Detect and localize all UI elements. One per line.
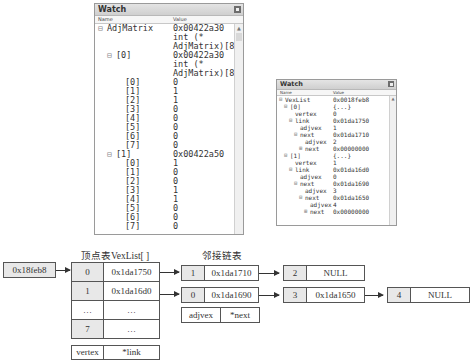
collapse-icon[interactable]: ⊟ xyxy=(284,152,287,159)
chain1-next-0: 0x1da1690 xyxy=(204,287,259,303)
watch-row[interactable]: [0]0 xyxy=(95,78,235,87)
watch-row[interactable]: vertex1 xyxy=(277,159,388,166)
expand-icon[interactable]: ⊞ xyxy=(304,208,307,215)
next-value: 0x1da1650 xyxy=(316,290,356,300)
watch-title: Watch xyxy=(280,80,303,88)
watch-row[interactable]: [7]0 xyxy=(95,222,235,231)
watch-row[interactable]: [4]0 xyxy=(95,114,235,123)
watch-row-value: 3 xyxy=(333,187,337,194)
watch-row-value: 0x01da1650 xyxy=(333,194,369,201)
vexlist-pointer-box: 0x18feb8 xyxy=(3,262,56,278)
watch-row[interactable]: ⊟next0x01da1690 xyxy=(277,180,388,187)
watch-row-value: 0x01da16d0 xyxy=(333,166,369,173)
chain1-adjvex-2: 4 xyxy=(387,287,411,303)
watch-row-value: 0x0018feb8 xyxy=(333,96,369,103)
scroll-up-icon[interactable]: ▲ xyxy=(235,24,243,32)
vexlist-vertex-ellipsis: … xyxy=(71,300,104,320)
watch-row-name: link xyxy=(295,117,309,124)
watch-row[interactable]: ⊟link0x01da1750 xyxy=(277,117,388,124)
watch-row[interactable]: [2]0 xyxy=(95,177,235,186)
watch-row[interactable]: [5]0 xyxy=(95,204,235,213)
watch-row-name: vertex xyxy=(295,159,317,166)
scrollbar[interactable]: ▲ xyxy=(389,96,396,225)
watch-row[interactable]: [5]0 xyxy=(95,123,235,132)
close-icon[interactable] xyxy=(234,6,241,13)
adjlist-title: 邻接链表 xyxy=(202,248,242,262)
watch-row[interactable]: adjvex1 xyxy=(277,124,388,131)
watch-row-value: 0x00000000 xyxy=(333,145,369,152)
scrollbar[interactable]: ▲ xyxy=(234,24,243,234)
collapse-icon[interactable]: ⊟ xyxy=(279,96,282,103)
link-value: 0x1da16d0 xyxy=(112,286,152,296)
scroll-up-icon[interactable]: ▲ xyxy=(390,96,396,102)
collapse-icon[interactable]: ⊟ xyxy=(299,194,302,201)
watch-row-name: [1] xyxy=(290,152,301,159)
next-value: 0x1da1710 xyxy=(212,268,252,278)
scroll-thumb[interactable] xyxy=(236,33,242,41)
watch-row[interactable]: adjvex4 xyxy=(277,201,388,208)
watch-row[interactable]: ⊟VexList0x0018feb8 xyxy=(277,96,388,103)
column-value[interactable]: Value xyxy=(173,16,187,23)
watch-row-value: {...} xyxy=(333,103,351,110)
watch-row[interactable]: ⊟[0]0x00422a30 xyxy=(95,51,235,60)
watch-row[interactable]: AdjMatrix)[8] xyxy=(95,69,235,78)
vexlist-link-ellipsis: … xyxy=(103,300,160,320)
watch-row[interactable]: [1]1 xyxy=(95,87,235,96)
watch-row[interactable]: ⊞next0x00000000 xyxy=(277,145,388,152)
collapse-icon[interactable]: ⊟ xyxy=(107,51,112,60)
watch-row-name: adjvex xyxy=(300,124,322,131)
expand-icon[interactable]: ⊞ xyxy=(299,145,302,152)
watch-row[interactable]: [6]0 xyxy=(95,213,235,222)
watch-window-vexlist: Watch Name Value ⊟VexList0x0018feb8⊟[0]{… xyxy=(276,79,397,226)
watch-row[interactable]: [4]1 xyxy=(95,195,235,204)
vexlist-vertex-1: 1 xyxy=(71,281,104,301)
column-value[interactable]: Value xyxy=(333,90,344,95)
column-name[interactable]: Name xyxy=(280,90,292,95)
watch-row[interactable]: ⊟[0]{...} xyxy=(277,103,388,110)
watch-row[interactable]: adjvex3 xyxy=(277,187,388,194)
watch-row[interactable]: ⊟next0x01da1650 xyxy=(277,194,388,201)
vexlist-link-7: … xyxy=(103,319,160,339)
collapse-icon[interactable]: ⊟ xyxy=(294,180,297,187)
watch-row-value: 0 xyxy=(333,173,337,180)
collapse-icon[interactable]: ⊟ xyxy=(98,24,103,33)
watch-row-name: adjvex xyxy=(310,201,332,208)
watch-row[interactable]: ⊟[1]{...} xyxy=(277,152,388,159)
link-value: … xyxy=(127,305,136,315)
watch-row[interactable]: [3]0 xyxy=(95,105,235,114)
watch-row[interactable]: [1]0 xyxy=(95,168,235,177)
vex-legend-link: *link xyxy=(103,345,160,360)
watch-row[interactable]: ⊞next0x00000000 xyxy=(277,208,388,215)
collapse-icon[interactable]: ⊟ xyxy=(294,131,297,138)
watch-row-name: adjvex xyxy=(305,187,327,194)
adjvex-value: 0 xyxy=(191,290,196,300)
watch-row[interactable]: [3]1 xyxy=(95,186,235,195)
arrow-icon xyxy=(160,294,179,295)
collapse-icon[interactable]: ⊟ xyxy=(289,117,292,124)
watch-row[interactable]: ⊟link0x01da16d0 xyxy=(277,166,388,173)
watch-row[interactable]: ⊟AdjMatrix0x00422a30 xyxy=(95,24,235,33)
next-value: NULL xyxy=(428,290,452,300)
collapse-icon[interactable]: ⊟ xyxy=(284,103,287,110)
watch-row-value: 0x01da1710 xyxy=(333,131,369,138)
vertex-value: 0 xyxy=(85,267,90,277)
watch-row[interactable]: adjvex2 xyxy=(277,138,388,145)
close-icon[interactable] xyxy=(388,81,394,87)
watch-row[interactable]: [2]1 xyxy=(95,96,235,105)
watch-row[interactable]: [6]0 xyxy=(95,132,235,141)
watch-row[interactable]: ⊟next0x01da1710 xyxy=(277,131,388,138)
watch-row[interactable]: adjvex0 xyxy=(277,173,388,180)
collapse-icon[interactable]: ⊟ xyxy=(289,166,292,173)
watch-row[interactable]: vertex0 xyxy=(277,110,388,117)
watch-row[interactable]: ⊟[1]0x00422a50 xyxy=(95,150,235,159)
adjvex-value: 4 xyxy=(397,290,402,300)
collapse-icon[interactable]: ⊟ xyxy=(107,150,112,159)
arrow-icon xyxy=(365,295,383,296)
chain1-adjvex-0: 0 xyxy=(181,287,205,303)
legend-text: adjvex xyxy=(189,310,213,320)
column-name[interactable]: Name xyxy=(98,16,113,23)
watch-row[interactable]: [0]1 xyxy=(95,159,235,168)
legend-text: vertex xyxy=(76,347,99,357)
watch-title: Watch xyxy=(98,5,126,14)
watch-row-name: vertex xyxy=(295,110,317,117)
